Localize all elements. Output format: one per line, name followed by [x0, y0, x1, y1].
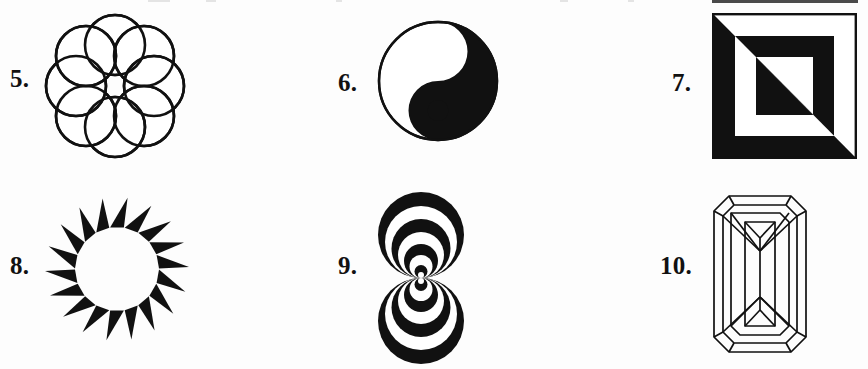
sunburst-spike [50, 284, 85, 296]
scan-speck [206, 0, 216, 2]
figure-6-number: 6. [338, 70, 357, 95]
sunburst-spike [149, 242, 184, 254]
sunburst-spike [110, 198, 128, 228]
scan-speck [148, 0, 170, 2]
sunburst-spike [45, 269, 77, 283]
figure-10-number: 10. [660, 253, 692, 278]
figure-7-artwork [712, 13, 857, 159]
sunburst-spike [63, 296, 96, 316]
scan-speck [628, 0, 634, 2]
figure-5-number: 5. [10, 66, 29, 91]
figure-10-artwork [712, 194, 808, 354]
sunburst-spike [49, 246, 78, 268]
scan-speck [336, 0, 342, 2]
nested-circle [418, 278, 424, 284]
sunburst-spike [138, 221, 171, 241]
scanned-page: 5. [0, 0, 868, 369]
sunburst-spike [106, 310, 124, 340]
sunburst-spike [138, 296, 154, 330]
figure-8-number: 8. [10, 253, 29, 278]
sunburst-spike [96, 198, 109, 232]
sunburst-spike [125, 206, 152, 233]
figure-5-artwork [40, 8, 190, 163]
sunburst-spike [149, 284, 173, 314]
figure-9-artwork [372, 192, 470, 364]
figure-7-number: 7. [672, 70, 691, 95]
figure-9-number: 9. [338, 253, 357, 278]
scan-speck [560, 0, 568, 2]
scan-edge-bar [712, 0, 858, 3]
nested-circle [418, 272, 424, 278]
sunburst-spike [157, 255, 189, 269]
figure-6-artwork [376, 18, 500, 144]
figure-8-artwork [44, 193, 190, 345]
sunburst-spike [125, 306, 138, 340]
sunburst-spike [61, 224, 85, 254]
sunburst-spike [157, 269, 186, 291]
sunburst-spike [83, 306, 110, 333]
sunburst-spike [79, 208, 95, 242]
